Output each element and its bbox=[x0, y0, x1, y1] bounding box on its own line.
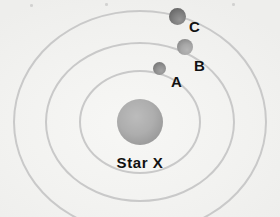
planet-c-body bbox=[169, 8, 186, 25]
star-system-diagram: Star X A B C bbox=[0, 0, 280, 217]
planet-a-label: A bbox=[171, 74, 182, 89]
planet-a-body bbox=[153, 62, 166, 75]
scan-speck bbox=[105, 3, 108, 6]
planet-b-label: B bbox=[194, 58, 205, 73]
planet-b-body bbox=[177, 39, 193, 55]
scan-speck bbox=[30, 4, 33, 7]
planet-c-label: C bbox=[189, 19, 200, 34]
star-x-body bbox=[117, 99, 163, 145]
star-x-label: Star X bbox=[117, 155, 164, 170]
scan-speck bbox=[232, 3, 235, 6]
